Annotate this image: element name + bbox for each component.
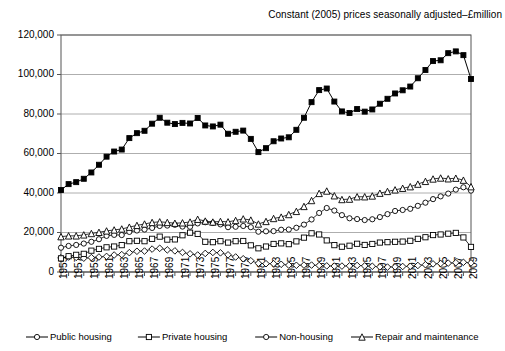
data-point	[271, 241, 276, 246]
data-point	[324, 188, 330, 194]
data-point	[165, 237, 170, 242]
data-point	[385, 212, 390, 217]
chart-legend: Public housingPrivate housingNon-housing…	[0, 327, 505, 347]
data-point	[460, 177, 466, 183]
data-point	[263, 229, 268, 234]
data-point	[347, 111, 352, 116]
data-point	[150, 121, 155, 126]
data-point	[188, 121, 193, 126]
data-point	[469, 77, 474, 82]
data-point	[58, 256, 63, 261]
data-point	[248, 243, 253, 248]
data-point	[187, 251, 194, 258]
series-line	[61, 51, 471, 190]
legend-marker	[146, 334, 151, 339]
data-point	[180, 120, 185, 125]
data-point	[324, 238, 329, 243]
data-point	[74, 242, 79, 247]
data-point	[438, 194, 443, 199]
x-axis-label: 1971	[180, 256, 191, 279]
data-point	[339, 213, 344, 218]
data-point	[355, 241, 360, 246]
data-point	[263, 218, 269, 224]
data-point	[248, 136, 253, 141]
data-point	[393, 91, 398, 96]
data-point	[461, 185, 466, 190]
data-point	[431, 59, 436, 64]
data-point	[241, 128, 246, 133]
data-point	[66, 182, 71, 187]
data-point	[141, 248, 148, 255]
data-point	[232, 217, 238, 223]
data-point	[59, 188, 64, 193]
data-point	[415, 236, 420, 241]
data-point	[317, 88, 322, 93]
data-point	[58, 245, 63, 250]
data-point	[195, 231, 200, 236]
data-point	[233, 239, 238, 244]
data-point	[392, 187, 398, 193]
series-total-all-work	[59, 49, 474, 193]
data-point	[332, 99, 337, 104]
legend-item-public-housing[interactable]: Public housing	[26, 331, 112, 342]
data-point	[156, 245, 163, 252]
data-point	[81, 176, 86, 181]
data-point	[355, 107, 360, 112]
legend-item-non-housing[interactable]: Non-housing	[255, 331, 333, 342]
data-point	[385, 96, 390, 101]
x-axis-label: 1975	[210, 256, 221, 279]
data-point	[264, 146, 269, 151]
data-point	[370, 241, 375, 246]
data-point	[89, 239, 94, 244]
data-point	[74, 252, 79, 257]
x-axis-label: 2009	[468, 256, 479, 279]
data-point	[96, 237, 101, 242]
data-point	[187, 230, 192, 235]
data-point	[317, 232, 322, 237]
data-point	[294, 225, 299, 230]
data-point	[355, 216, 360, 221]
data-point	[218, 122, 223, 127]
y-axis-label: 60,000	[23, 147, 54, 158]
data-point	[331, 193, 337, 199]
data-point	[241, 223, 246, 228]
data-point	[271, 139, 276, 144]
data-point	[233, 224, 238, 229]
legend-item-repair-and-maintenance[interactable]: Repair and maintenance	[351, 331, 479, 342]
data-point	[89, 170, 94, 175]
data-point	[194, 216, 200, 222]
data-point	[210, 240, 215, 245]
data-point	[172, 237, 177, 242]
data-point	[119, 232, 124, 237]
data-point	[415, 181, 421, 187]
data-point	[81, 251, 86, 256]
data-point	[446, 191, 451, 196]
data-point	[286, 211, 292, 217]
legend-label: Private housing	[162, 331, 227, 342]
y-axis-label: 0	[48, 266, 54, 277]
data-point	[141, 221, 147, 227]
data-point	[430, 197, 435, 202]
data-point	[179, 249, 186, 256]
data-point	[66, 243, 71, 248]
data-point	[256, 150, 261, 155]
data-point	[332, 208, 337, 213]
data-point	[263, 244, 268, 249]
data-point	[423, 235, 428, 240]
y-axis-label: 40,000	[23, 187, 54, 198]
x-axis-label: 1981	[256, 256, 267, 279]
legend-item-private-housing[interactable]: Private housing	[138, 331, 227, 342]
data-point	[384, 188, 390, 194]
data-point	[218, 239, 223, 244]
data-point	[399, 185, 405, 191]
data-point	[180, 233, 185, 238]
y-axis-label: 100,000	[18, 68, 55, 79]
data-point	[362, 217, 367, 222]
x-axis-label: 2005	[438, 256, 449, 279]
data-point	[96, 162, 101, 167]
data-point	[172, 122, 177, 127]
data-point	[362, 109, 367, 114]
data-point	[446, 51, 451, 56]
data-point	[66, 254, 71, 259]
y-axis-label: 120,000	[18, 29, 55, 40]
